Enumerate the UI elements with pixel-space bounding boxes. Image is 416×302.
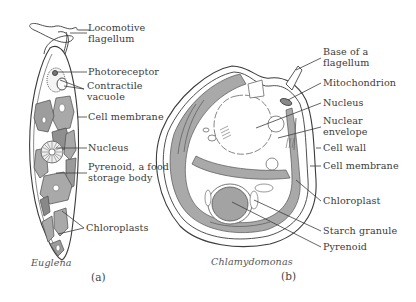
organism-name-euglena: Euglena bbox=[31, 257, 72, 268]
label-cell-wall: Cell wall bbox=[323, 142, 366, 153]
label-starch-granule: Starch granule bbox=[323, 225, 397, 236]
panel-label-a: (a) bbox=[91, 272, 106, 283]
label-euglena-cell-membrane: Cell membrane bbox=[88, 111, 164, 122]
label-nuclear-envelope: Nuclear envelope bbox=[323, 115, 367, 137]
label-chlamydomonas-nucleus: Nucleus bbox=[323, 97, 364, 108]
label-euglena-pyrenoid: Pyrenoid, a food storage body bbox=[88, 161, 169, 183]
chlamydomonas-pyrenoid bbox=[208, 184, 252, 224]
label-chloroplast: Chloroplast bbox=[323, 195, 381, 206]
label-locomotive-flagellum: Locomotive flagellum bbox=[88, 22, 145, 44]
label-base-of-flagellum: Base of a flagellum bbox=[323, 46, 369, 68]
euglena-drawing bbox=[30, 23, 90, 260]
label-contractile-vacuole: Contractile vacuole bbox=[87, 80, 143, 102]
label-euglena-nucleus: Nucleus bbox=[88, 142, 129, 153]
organism-name-chlamydomonas: Chlamydomonas bbox=[211, 256, 293, 267]
figure: Locomotive flagellum Photoreceptor Contr… bbox=[0, 0, 416, 302]
label-chlamydomonas-cell-membrane: Cell membrane bbox=[323, 160, 399, 171]
label-photoreceptor: Photoreceptor bbox=[88, 66, 159, 77]
label-chloroplasts: Chloroplasts bbox=[86, 222, 149, 233]
label-mitochondrion: Mitochondrion bbox=[323, 77, 396, 88]
label-pyrenoid: Pyrenoid bbox=[323, 241, 367, 252]
chlamydomonas-flagellum-base bbox=[286, 66, 302, 90]
chlamydomonas-drawing bbox=[156, 66, 316, 247]
euglena-nucleus bbox=[41, 141, 63, 163]
panel-label-b: (b) bbox=[281, 271, 296, 282]
